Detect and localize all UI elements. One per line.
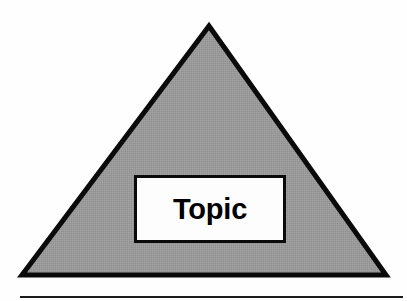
triangle-shape <box>0 0 407 301</box>
topic-box-label: Topic <box>173 195 247 224</box>
bottom-rule <box>20 296 403 298</box>
topic-box: Topic <box>134 175 286 243</box>
figure-canvas: Topic <box>0 0 407 301</box>
